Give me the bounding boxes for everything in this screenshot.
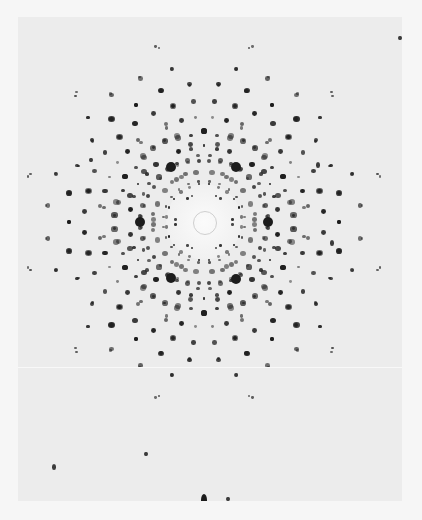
- film-scratch-line: [18, 367, 402, 368]
- diffraction-spot: [108, 266, 111, 269]
- diffraction-spot: [228, 188, 230, 190]
- diffraction-spot: [252, 185, 256, 189]
- diffraction-spot: [152, 185, 156, 189]
- diffraction-spot: [311, 271, 316, 275]
- diffraction-spot: [196, 154, 200, 158]
- diffraction-spot: [379, 266, 381, 268]
- diffraction-spot: [194, 116, 197, 119]
- diffraction-spot: [155, 201, 160, 206]
- diffraction-spot: [261, 155, 267, 160]
- diffraction-spot: [252, 145, 258, 151]
- diffraction-spot: [321, 209, 326, 214]
- diffraction-spot: [225, 190, 228, 193]
- diffraction-spot: [220, 172, 224, 176]
- diffraction-spot: [238, 206, 240, 208]
- diffraction-spot: [194, 325, 197, 328]
- diffraction-spot: [187, 82, 191, 86]
- diffraction-spot: [142, 192, 146, 196]
- diffraction-spot: [215, 147, 219, 151]
- diffraction-spot: [103, 289, 108, 293]
- diffraction-spot: [170, 373, 174, 376]
- diffraction-spot: [85, 188, 91, 194]
- diffraction-spot: [111, 226, 117, 232]
- diffraction-spot: [165, 225, 168, 228]
- diffraction-spot: [125, 290, 130, 295]
- diffraction-spot: [289, 239, 295, 245]
- diffraction-spot: [283, 189, 286, 192]
- diffraction-spot: [74, 347, 77, 349]
- diffraction-spot: [146, 246, 150, 250]
- diffraction-spot: [238, 235, 240, 237]
- diffraction-spot: [227, 135, 233, 140]
- diffraction-spot: [197, 261, 200, 264]
- diffraction-spot: [141, 155, 147, 160]
- diffraction-spot: [196, 287, 200, 291]
- diffraction-spot: [253, 228, 257, 232]
- diffraction-spot: [188, 297, 194, 302]
- diffraction-spot: [151, 111, 156, 116]
- diffraction-spot: [191, 99, 196, 103]
- diffraction-spot: [201, 494, 207, 501]
- diffraction-spot: [231, 223, 234, 226]
- diffraction-spot: [314, 140, 317, 143]
- diffraction-spot: [162, 188, 167, 193]
- diffraction-spot: [151, 228, 155, 232]
- diffraction-spot: [216, 358, 220, 362]
- diffraction-spot: [168, 235, 170, 237]
- diffraction-spot: [153, 162, 158, 167]
- diffraction-spot: [257, 259, 261, 263]
- diffraction-spot: [156, 264, 161, 269]
- diffraction-spot: [134, 337, 138, 341]
- diffraction-spot: [86, 251, 90, 255]
- diffraction-spot: [183, 268, 187, 272]
- diffraction-spot: [102, 235, 106, 239]
- diffraction-spot: [168, 206, 170, 208]
- diffraction-spot: [350, 268, 354, 272]
- diffraction-spot: [103, 150, 108, 154]
- diffraction-spot: [187, 259, 189, 261]
- diffraction-spot: [218, 161, 221, 164]
- diffraction-spot: [187, 183, 189, 185]
- beam-stop-ring: [193, 211, 217, 235]
- diffraction-spot: [146, 194, 150, 198]
- diffraction-spot: [122, 265, 128, 271]
- diffraction-spot: [252, 328, 257, 333]
- diffraction-spot: [270, 318, 275, 323]
- diffraction-spot: [252, 255, 256, 259]
- diffraction-spot: [248, 201, 253, 206]
- diffraction-spot: [165, 314, 169, 318]
- diffraction-spot: [82, 230, 87, 235]
- diffraction-spot: [153, 277, 158, 282]
- diffraction-spot: [229, 262, 234, 267]
- diffraction-spot: [116, 239, 122, 244]
- diffraction-spot: [155, 237, 160, 242]
- diffraction-spot: [66, 248, 72, 254]
- diffraction-spot: [217, 84, 220, 87]
- diffraction-spot: [293, 322, 299, 328]
- diffraction-spot: [29, 269, 32, 271]
- diffraction-spot: [139, 141, 143, 145]
- diffraction-spot: [251, 45, 253, 47]
- diffraction-spot: [269, 183, 272, 186]
- diffraction-spot: [243, 216, 245, 218]
- diffraction-spot: [27, 266, 29, 268]
- diffraction-spot: [297, 176, 300, 179]
- diffraction-spot: [376, 173, 379, 175]
- diffraction-spot: [270, 275, 273, 278]
- diffraction-spot: [270, 337, 274, 341]
- diffraction-spot: [263, 192, 267, 196]
- diffraction-spot: [54, 172, 58, 176]
- diffraction-spot: [283, 252, 286, 255]
- diffraction-spot: [154, 396, 156, 398]
- diffraction-spot: [275, 232, 280, 237]
- diffraction-spot: [142, 248, 146, 252]
- diffraction-spot: [144, 452, 148, 456]
- diffraction-spot: [263, 236, 268, 241]
- diffraction-spot: [138, 76, 143, 81]
- diffraction-spot: [227, 290, 232, 295]
- diffraction-spot: [330, 240, 334, 245]
- diffraction-spot: [229, 177, 234, 182]
- diffraction-spot: [92, 271, 97, 275]
- diffraction-spot: [215, 142, 221, 147]
- diffraction-spot: [109, 323, 113, 327]
